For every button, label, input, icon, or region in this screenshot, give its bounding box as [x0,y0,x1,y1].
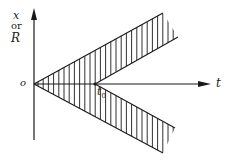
vertical-axis-arrow-icon [31,8,37,20]
y-axis-label-r: R [11,32,20,44]
y-axis-label-or: or [11,21,22,31]
t0-label-sub: 0 [101,92,105,100]
wedge-diagram [0,0,233,164]
upper-outer-edge [34,13,163,84]
t-axis-label: t [216,77,221,89]
t0-label: t0 [97,86,106,100]
time-axis-arrow-icon [198,81,211,87]
origin-label: o [20,78,26,88]
